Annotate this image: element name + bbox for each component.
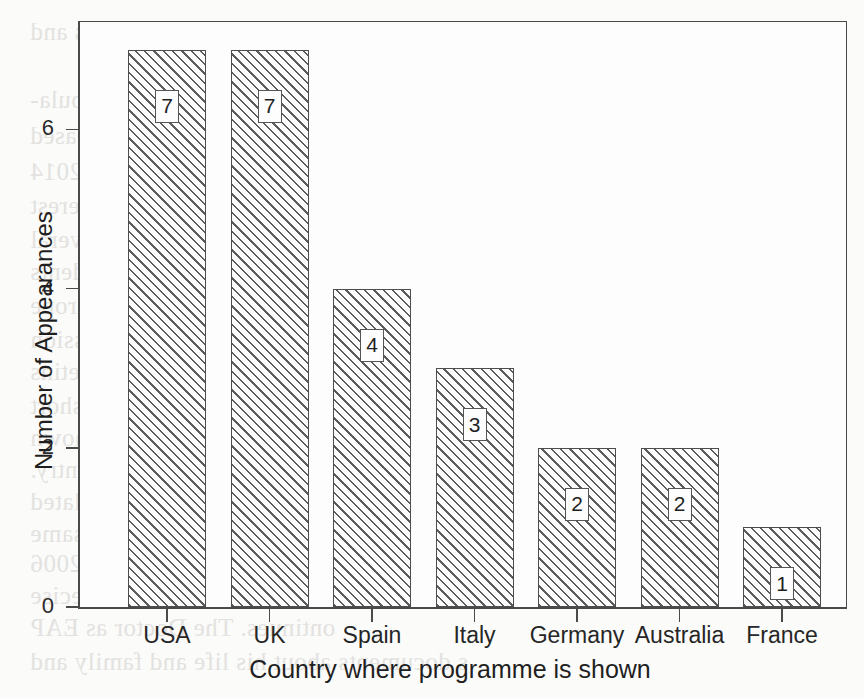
bar <box>641 448 719 607</box>
bar-value-label: 3 <box>463 408 487 441</box>
y-axis-line <box>78 21 80 609</box>
x-axis-tick <box>371 609 373 622</box>
y-axis-tick <box>66 288 78 290</box>
bar <box>538 448 616 607</box>
x-axis-tick <box>679 609 681 622</box>
x-axis-tick <box>166 609 168 622</box>
x-axis-title-text: Country where programme is shown <box>249 655 651 683</box>
x-axis-tick <box>474 609 476 622</box>
y-axis-tick-label: 6 <box>8 115 54 141</box>
bar-value-label: 4 <box>360 329 384 362</box>
bar <box>436 368 514 607</box>
x-axis-title: Country where programme is shown <box>0 655 864 684</box>
y-axis-tick <box>66 606 78 608</box>
y-axis-title: Number of Appearances <box>30 211 58 470</box>
bar-value-label: 7 <box>155 90 179 123</box>
x-axis-category-label: France <box>712 622 852 649</box>
scanned-chart-page: wed in Hvar, by Flowers. ces andnts.show… <box>0 0 864 699</box>
y-axis-tick <box>66 129 78 131</box>
bar-value-label: 1 <box>770 567 794 600</box>
x-axis-tick <box>269 609 271 622</box>
bar <box>231 50 309 607</box>
bar-value-label: 7 <box>258 90 282 123</box>
x-axis-line <box>78 607 847 609</box>
y-axis-tick-label: 0 <box>8 593 54 619</box>
x-axis-tick <box>576 609 578 622</box>
y-axis-tick <box>66 447 78 449</box>
bar-value-label: 2 <box>565 488 589 521</box>
bar <box>128 50 206 607</box>
bar-value-label: 2 <box>668 488 692 521</box>
x-axis-tick <box>781 609 783 622</box>
